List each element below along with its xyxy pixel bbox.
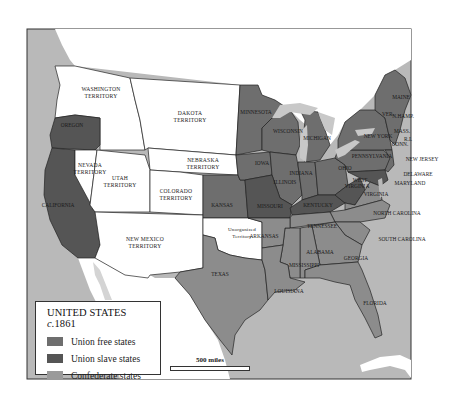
svg-text:PENNSYLVANIA: PENNSYLVANIA — [352, 153, 393, 159]
svg-text:KANSAS: KANSAS — [211, 202, 233, 208]
svg-text:KENTUCKY: KENTUCKY — [303, 202, 333, 208]
svg-text:MISSISSIPPI: MISSISSIPPI — [289, 262, 319, 268]
svg-text:TERRITORY: TERRITORY — [174, 117, 207, 123]
svg-text:MAINE: MAINE — [392, 94, 410, 100]
swatch-union-slave — [47, 354, 63, 363]
svg-text:OREGON: OREGON — [61, 122, 84, 128]
svg-text:ILLINOIS: ILLINOIS — [274, 179, 297, 185]
svg-text:DAKOTA: DAKOTA — [178, 110, 202, 116]
svg-text:CALIFORNIA: CALIFORNIA — [42, 202, 75, 208]
svg-text:NEW MEXICO: NEW MEXICO — [126, 236, 164, 242]
svg-text:DELAWARE: DELAWARE — [403, 171, 433, 177]
svg-text:COLORADO: COLORADO — [160, 188, 193, 194]
oregon-state — [50, 115, 100, 150]
swatch-confederate — [47, 371, 63, 380]
svg-text:NEW YORK: NEW YORK — [364, 133, 393, 139]
legend-label: Union free states — [71, 337, 135, 347]
svg-text:NEBRASKA: NEBRASKA — [187, 157, 219, 163]
svg-text:TERRITORY: TERRITORY — [74, 169, 107, 175]
svg-text:FLORIDA: FLORIDA — [363, 300, 386, 306]
svg-text:Unorganized: Unorganized — [228, 227, 256, 232]
svg-text:TERRITORY: TERRITORY — [160, 195, 193, 201]
svg-text:IOWA: IOWA — [255, 160, 269, 166]
scale-bar: 500 miles — [170, 356, 250, 371]
svg-text:VIRGINIA: VIRGINIA — [345, 183, 370, 189]
kansas-state — [203, 175, 248, 218]
svg-text:VIRGINIA: VIRGINIA — [364, 191, 389, 197]
svg-text:NEVADA: NEVADA — [78, 162, 102, 168]
svg-text:NORTH CAROLINA: NORTH CAROLINA — [373, 210, 421, 216]
svg-text:MICHIGAN: MICHIGAN — [303, 135, 331, 141]
svg-text:MISSOURI: MISSOURI — [257, 203, 283, 209]
svg-text:TERRITORY: TERRITORY — [104, 182, 137, 188]
svg-text:ARKANSAS: ARKANSAS — [249, 233, 278, 239]
legend-title: UNITED STATES c.1861 — [47, 307, 152, 329]
svg-text:TERRITORY: TERRITORY — [129, 243, 162, 249]
swatch-union-free — [47, 337, 63, 346]
svg-text:SOUTH CAROLINA: SOUTH CAROLINA — [378, 236, 425, 242]
svg-text:TERRITORY: TERRITORY — [85, 93, 118, 99]
svg-text:TENNESSEE: TENNESSEE — [307, 223, 338, 229]
svg-text:WASHINGTON: WASHINGTON — [81, 86, 120, 92]
svg-text:MARYLAND: MARYLAND — [395, 180, 426, 186]
svg-text:NEW JERSEY: NEW JERSEY — [406, 156, 439, 162]
svg-text:UTAH: UTAH — [112, 175, 128, 181]
legend-item-union-free: Union free states — [47, 333, 152, 350]
scale-bar-graphic — [170, 366, 250, 371]
svg-text:GEORGIA: GEORGIA — [344, 255, 368, 261]
svg-text:INDIANA: INDIANA — [289, 170, 312, 176]
legend-item-union-slave: Union slave states — [47, 350, 152, 367]
svg-text:TERRITORY: TERRITORY — [187, 164, 220, 170]
svg-text:CONN.: CONN. — [392, 141, 409, 147]
svg-text:ALABAMA: ALABAMA — [306, 249, 333, 255]
map-legend: UNITED STATES c.1861 Union free states U… — [35, 301, 161, 375]
svg-text:LOUISIANA: LOUISIANA — [274, 288, 303, 294]
svg-text:TEXAS: TEXAS — [211, 271, 228, 277]
svg-text:MASS.: MASS. — [394, 128, 410, 134]
svg-text:WISCONSIN: WISCONSIN — [273, 128, 303, 134]
legend-label: Union slave states — [71, 354, 140, 364]
svg-text:N.HAMP.: N.HAMP. — [392, 113, 414, 119]
utah-territory — [90, 150, 150, 212]
svg-text:OHIO: OHIO — [338, 165, 352, 171]
svg-text:MINNESOTA: MINNESOTA — [240, 109, 271, 115]
legend-label: Confederate states — [71, 371, 141, 381]
legend-item-confederate: Confederate states — [47, 367, 152, 384]
scale-label: 500 miles — [170, 356, 250, 364]
